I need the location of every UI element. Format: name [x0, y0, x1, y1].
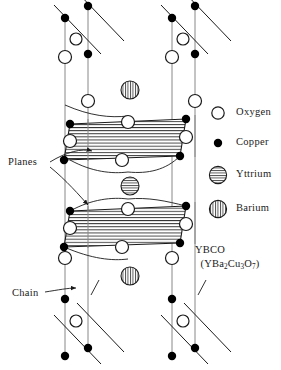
bottom-chain-bonds [54, 303, 231, 364]
chain-tick-right [198, 280, 206, 295]
chain-leader [45, 288, 76, 292]
oxygen-atom-apical-upper-left [82, 95, 95, 108]
oxygen-atom-apical-upper-right [189, 95, 202, 108]
formula-element-ba: Ba [212, 258, 224, 269]
copper-atom-top-chain-back-left [84, 2, 92, 10]
oxygen-atom-lower-plane-back [122, 203, 135, 216]
legend-label-yttrium: Yttrium [236, 168, 271, 179]
oxygen-atom-apical-lower-right [166, 252, 179, 265]
copper-atom-bottom-chain-front-right [168, 295, 176, 303]
legend-label-barium: Barium [236, 202, 269, 213]
oxygen-atom-bottom-chain-right [177, 315, 189, 327]
annotation-label-planes: Planes [8, 156, 37, 167]
copper-atom-lower-plane-front-left [60, 243, 68, 251]
compound-formula: (YBa2Cu3O7) [180, 257, 280, 270]
yttrium-atom-center [121, 177, 139, 195]
formula-sub-ba: 2 [224, 263, 228, 271]
oxygen-atom-upper-plane-front [116, 154, 129, 167]
oxygen-atom-lower-plane-right [180, 218, 193, 231]
copper-atom-lower-plane-back-left [66, 207, 74, 215]
copper-atom-bottom-chain-back-left [84, 344, 92, 352]
chain-bond-bottom-right-b [184, 303, 231, 352]
chain-bond-top-right-a [161, 5, 208, 54]
oxygen-atom-lower-plane-front [116, 241, 129, 254]
copper-atom-top-chain-front-right [168, 14, 176, 22]
oxygen-atom-top-axis-right [166, 51, 179, 64]
top-chain-bonds [54, 0, 231, 54]
copper-atom-bottom-axis-right [168, 352, 176, 360]
oxygen-atom-top-axis-left [59, 51, 72, 64]
oxygen-atom-upper-plane-left [64, 135, 77, 148]
formula-sub-o: 7 [252, 263, 256, 271]
formula-element-cu: Cu [228, 258, 241, 269]
copper-atom-top-chain-lower-right [191, 50, 199, 58]
legend-barium-icon [209, 200, 226, 217]
ybco-structure-figure: Oxygen Copper Yttrium Barium Planes Chai… [0, 0, 281, 370]
chain-bond-top-left-a [54, 5, 101, 54]
copper-atom-bottom-axis-left [61, 352, 69, 360]
bond-above-upper-plane-left [65, 105, 128, 117]
copper-atom-upper-plane-front-left [60, 156, 68, 164]
legend-copper-icon [214, 139, 222, 147]
oxygen-atom-bottom-chain-left [70, 315, 82, 327]
copper-atom-upper-plane-back-left [66, 120, 74, 128]
oxygen-atom-apical-lower-left [59, 252, 72, 265]
oxygen-atom-top-chain-right [177, 33, 189, 45]
copper-atom-upper-plane-front-right [176, 152, 184, 160]
annotation-label-chain: Chain [12, 287, 39, 298]
copper-atom-top-chain-front-left [61, 14, 69, 22]
oxygen-atom-upper-plane-back [122, 116, 135, 129]
barium-atom-lower [121, 267, 139, 285]
legend-oxygen-icon [212, 107, 224, 119]
copper-atom-lower-plane-front-right [176, 239, 184, 247]
formula-close-paren: ) [256, 258, 260, 269]
chain-tick-left [91, 280, 99, 295]
copper-atom-upper-plane-back-right [182, 115, 190, 123]
copper-atom-lower-plane-back-right [182, 202, 190, 210]
legend-label-oxygen: Oxygen [236, 106, 271, 117]
planes-leader-lower [50, 167, 88, 205]
legend-yttrium-icon [209, 166, 226, 183]
yttrium-atoms [121, 177, 139, 195]
formula-element-o: O [244, 258, 252, 269]
copper-atom-bottom-chain-back-right [191, 344, 199, 352]
compound-name: YBCO [195, 243, 225, 256]
oxygen-atom-lower-plane-left [64, 222, 77, 235]
bond-lower-plane-top-right [128, 198, 186, 206]
formula-sub-cu: 3 [240, 263, 244, 271]
copper-atom-top-chain-lower-left [84, 50, 92, 58]
formula-element-y: Y [204, 258, 212, 269]
legend-label-copper: Copper [236, 136, 269, 147]
legend-icons [209, 107, 226, 218]
oxygen-atom-top-chain-left [70, 33, 82, 45]
chain-bond-bottom-left-b [77, 303, 124, 352]
barium-atom-upper [121, 81, 139, 99]
crystal-structure-drawing [0, 0, 281, 370]
oxygen-atom-upper-plane-right [180, 131, 193, 144]
copper-atom-bottom-chain-front-left [61, 295, 69, 303]
copper-atom-top-chain-back-right [191, 2, 199, 10]
